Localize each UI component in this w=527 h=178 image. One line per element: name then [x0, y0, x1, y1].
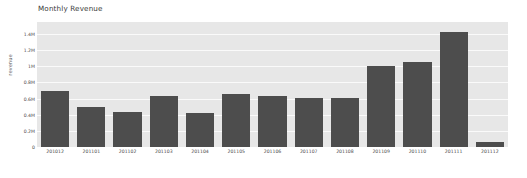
bar[interactable]	[113, 112, 141, 147]
x-tick-label: 201111	[445, 149, 463, 154]
y-tick-label: 0	[1, 145, 35, 150]
x-tick-label: 201107	[300, 149, 318, 154]
y-tick-label: 1M	[1, 64, 35, 69]
y-tick-label: 0.6M	[1, 96, 35, 101]
bar[interactable]	[476, 142, 504, 147]
y-tick-label: 1.4M	[1, 32, 35, 37]
x-tick-label: 201012	[46, 149, 64, 154]
x-tick-label: 201105	[227, 149, 245, 154]
bar[interactable]	[150, 96, 178, 147]
x-tick-label: 201112	[481, 149, 499, 154]
x-tick-label: 201109	[372, 149, 390, 154]
bar-series	[37, 22, 508, 147]
bar[interactable]	[331, 98, 359, 147]
x-tick-label: 201108	[336, 149, 354, 154]
bar[interactable]	[77, 107, 105, 147]
y-tick-label: 0.4M	[1, 112, 35, 117]
y-tick-label: 1.2M	[1, 48, 35, 53]
x-tick-label: 201110	[409, 149, 427, 154]
chart-title: Monthly Revenue	[38, 4, 103, 13]
bar[interactable]	[258, 96, 286, 147]
bar[interactable]	[367, 66, 395, 147]
bar[interactable]	[295, 98, 323, 147]
x-tick-label: 201103	[155, 149, 173, 154]
x-tick-label: 201104	[191, 149, 209, 154]
bar[interactable]	[41, 91, 69, 147]
x-axis-tick-labels: 2010122011012011022011032011042011052011…	[37, 149, 508, 163]
y-axis-tick-labels: 00.2M0.4M0.6M0.8M1M1.2M1.4M	[0, 22, 35, 147]
y-tick-label: 0.8M	[1, 80, 35, 85]
x-tick-label: 201101	[83, 149, 101, 154]
bar[interactable]	[403, 62, 431, 147]
chart-figure: Monthly Revenue revenue 00.2M0.4M0.6M0.8…	[0, 0, 527, 178]
bar[interactable]	[222, 94, 250, 147]
x-tick-label: 201102	[119, 149, 137, 154]
x-tick-label: 201106	[264, 149, 282, 154]
bar[interactable]	[440, 32, 468, 147]
plot-area	[37, 22, 508, 147]
y-tick-label: 0.2M	[1, 128, 35, 133]
bar[interactable]	[186, 113, 214, 147]
